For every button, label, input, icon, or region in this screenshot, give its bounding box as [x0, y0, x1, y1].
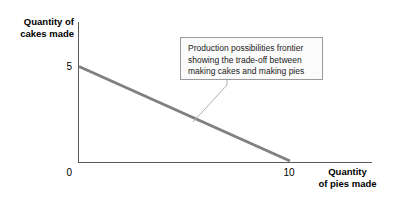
x-axis-tick-label-10: 10 — [279, 167, 299, 179]
production-possibilities-frontier-line — [79, 67, 290, 162]
y-axis-title: Quantity of cakes made — [6, 16, 74, 40]
origin-tick-label: 0 — [52, 167, 72, 179]
callout-text: Production possibilities frontier showin… — [188, 43, 316, 78]
y-axis-tick-label-5: 5 — [52, 61, 72, 73]
callout-leader-line — [193, 80, 227, 122]
callout-box: Production possibilities frontier showin… — [180, 37, 323, 80]
ppf-chart-figure: Quantity of cakes made Quantity of pies … — [0, 0, 399, 203]
x-axis-title: Quantity of pies made — [300, 166, 395, 190]
